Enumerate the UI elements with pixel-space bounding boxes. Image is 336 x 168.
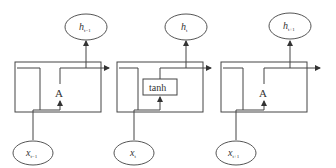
rnn-cell-t-minus-1: A ht−1 xt−1	[13, 14, 109, 165]
input-line	[33, 101, 60, 140]
hidden-in-line	[223, 68, 243, 110]
input-node-x-t-minus-1	[13, 141, 53, 165]
hidden-in-line	[119, 68, 138, 110]
rnn-cell-t-plus-1: A ht+1 xt+1	[216, 13, 320, 165]
hidden-in-line	[17, 68, 40, 110]
cell-label: A	[55, 87, 63, 99]
output-node-h-t	[165, 14, 207, 40]
state-out-line	[264, 68, 320, 84]
input-line	[236, 101, 264, 140]
output-node-h-t-minus-1	[65, 14, 107, 40]
tanh-label: tanh	[149, 82, 166, 93]
output-node-h-t-plus-1	[269, 13, 311, 39]
input-node-x-t-plus-1	[216, 141, 256, 165]
rnn-diagram: A ht−1 xt−1 tanh ht xt A ht+1 xt+1	[0, 0, 336, 168]
state-out-line	[60, 68, 109, 84]
rnn-cell-t: tanh ht xt	[114, 14, 211, 165]
cell-label: A	[259, 87, 267, 99]
